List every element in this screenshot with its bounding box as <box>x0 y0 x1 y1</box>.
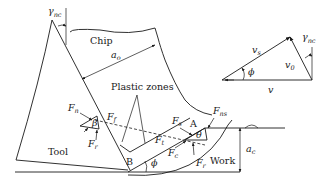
cutting-mechanics-diagram: γnc Chip ao Plastic zones Tool Work B A … <box>0 0 325 187</box>
force-fs-label: Fs <box>171 115 183 128</box>
cut-thickness-label: ac <box>246 143 256 156</box>
work-label: Work <box>210 155 235 166</box>
velocity-shear-angle-label: ϕ <box>248 66 255 77</box>
velocity-triangle <box>222 37 312 80</box>
theta-label: θ <box>196 129 202 140</box>
point-b-label: B <box>126 156 133 167</box>
tool-label: Tool <box>48 146 68 157</box>
force-ff-label: Ff <box>106 111 118 124</box>
point-a-label: A <box>189 118 197 129</box>
chip-label: Chip <box>90 35 113 46</box>
force-fr-tool-label: Fr <box>87 138 99 151</box>
force-fns-label: Fns <box>212 105 228 118</box>
cutting-velocity-label: v <box>268 84 274 95</box>
chip-thickness-label: ao <box>111 49 121 62</box>
chip-velocity-label: v0 <box>285 59 295 72</box>
shear-velocity-label: vs <box>252 44 261 57</box>
plastic-zones-label: Plastic zones <box>111 81 174 92</box>
friction-angle-label: β <box>91 117 98 128</box>
shear-angle-label: ϕ <box>151 157 158 168</box>
force-fc-label: Fc <box>167 147 179 160</box>
shear-angle-arc <box>145 161 147 172</box>
force-fr-work-label: Fr <box>195 157 207 170</box>
rake-angle-label: γnc <box>48 5 62 19</box>
velocity-rake-angle-label: γnc <box>302 31 316 45</box>
force-ft-label: Ft <box>154 134 165 147</box>
force-fn-label: Fn <box>67 102 79 115</box>
